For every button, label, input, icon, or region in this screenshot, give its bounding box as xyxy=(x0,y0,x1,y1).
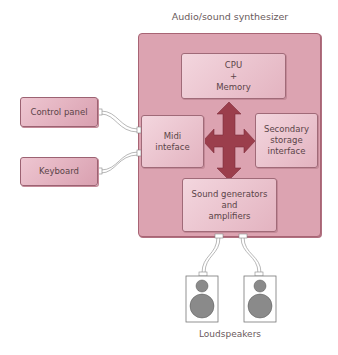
and-label: and xyxy=(192,200,268,211)
cpu-memory-box: CPU + Memory xyxy=(181,53,286,99)
loudspeaker-right-icon xyxy=(244,276,276,322)
secondary-label: Secondary xyxy=(264,124,309,135)
bus-arrow-icon xyxy=(203,102,255,180)
midi-interface-box: Midi inteface xyxy=(141,115,204,168)
keyboard-box: Keyboard xyxy=(20,157,98,186)
control-panel-label: Control panel xyxy=(30,107,87,118)
loudspeakers-label: Loudspeakers xyxy=(180,329,280,339)
control-panel-cable xyxy=(101,111,138,132)
plus-label: + xyxy=(216,71,251,82)
sound-generators-label: Sound generators xyxy=(192,189,268,200)
interface-label: inteface xyxy=(155,142,189,153)
memory-label: Memory xyxy=(216,82,251,93)
keyboard-cable xyxy=(101,152,138,173)
amplifiers-label: amplifiers xyxy=(192,211,268,222)
sound-generators-box: Sound generators and amplifiers xyxy=(182,178,277,232)
keyboard-label: Keyboard xyxy=(39,166,79,177)
secondary-storage-box: Secondary storage interface xyxy=(255,113,318,168)
midi-label: Midi xyxy=(155,131,189,142)
control-panel-box: Control panel xyxy=(20,97,98,127)
storage-label: storage xyxy=(264,135,309,146)
loudspeaker-left-icon xyxy=(186,276,218,322)
speaker-cables xyxy=(202,237,261,273)
cpu-label: CPU xyxy=(216,60,251,71)
storage-interface-label: interface xyxy=(264,146,309,157)
